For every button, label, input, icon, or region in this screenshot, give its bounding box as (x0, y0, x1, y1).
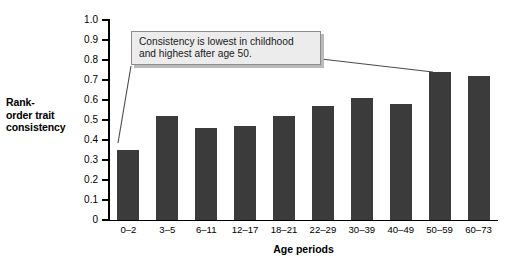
bar (273, 116, 295, 220)
y-axis-tick-label: 0.8 (72, 55, 98, 65)
bar (390, 104, 412, 220)
x-axis-tick-label: 40–49 (381, 224, 420, 235)
y-axis-tick (102, 179, 109, 180)
callout-text: Consistency is lowest in childhood and h… (139, 36, 313, 61)
y-axis-tick (102, 199, 109, 200)
bar (234, 126, 256, 220)
y-axis-tick (102, 119, 109, 120)
x-axis-tick-labels: 0–23–56–1112–1718–2122–2930–3940–4950–59… (109, 224, 498, 240)
y-axis-tick-label: 0.4 (72, 135, 98, 145)
x-axis-tick-label: 0–2 (109, 224, 148, 235)
x-axis-title: Age periods (109, 243, 498, 255)
y-axis-tick-label: 0.9 (72, 35, 98, 45)
y-axis-tick-label: 0.5 (72, 115, 98, 125)
y-axis-tick (102, 219, 109, 220)
y-axis-tick-label: 0.7 (72, 75, 98, 85)
bar-chart-figure: Rank- order trait consistency 1.00.90.80… (0, 0, 512, 267)
y-axis-tick-label: 0.1 (72, 195, 98, 205)
y-axis-tick-label: 1.0 (72, 15, 98, 25)
y-axis-tick-label: 0.6 (72, 95, 98, 105)
bar (312, 106, 334, 220)
y-axis-tick-label: 0.2 (72, 175, 98, 185)
bar (468, 76, 490, 220)
bar (195, 128, 217, 220)
x-axis-tick-label: 6–11 (187, 224, 226, 235)
x-axis-tick-label: 60–73 (459, 224, 498, 235)
bar (429, 72, 451, 220)
y-axis-tick (102, 159, 109, 160)
y-axis-tick (102, 99, 109, 100)
x-axis-tick-label: 18–21 (265, 224, 304, 235)
bar (351, 98, 373, 220)
y-axis-tick-label: 0 (72, 215, 98, 225)
x-axis-tick-label: 50–59 (420, 224, 459, 235)
y-axis-tick (102, 59, 109, 60)
y-axis-tick (102, 79, 109, 80)
x-axis-tick-label: 12–17 (226, 224, 265, 235)
x-axis-tick-label: 3–5 (148, 224, 187, 235)
y-axis-tick (102, 39, 109, 40)
x-axis-tick-label: 30–39 (342, 224, 381, 235)
y-axis-tick-label: 0.3 (72, 155, 98, 165)
bar (156, 116, 178, 220)
y-axis-tick (102, 139, 109, 140)
y-axis-tick (102, 19, 109, 20)
bar (117, 150, 139, 220)
callout-box: Consistency is lowest in childhood and h… (131, 31, 321, 65)
x-axis-tick-label: 22–29 (304, 224, 343, 235)
